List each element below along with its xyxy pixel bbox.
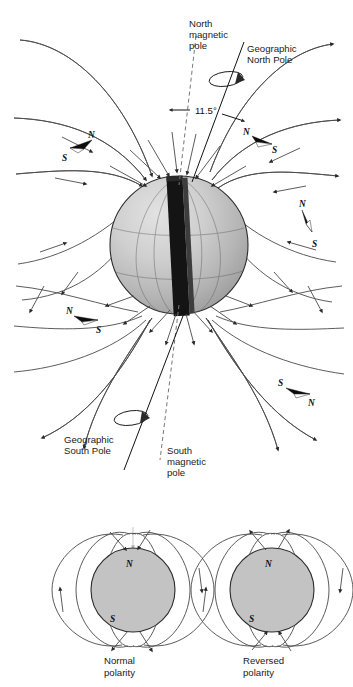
north-magnetic-pole-line-3: pole [189,40,207,51]
geographic-north-pole-line-1: Geographic [247,43,297,54]
south-magnetic-pole-line-3: pole [167,467,185,478]
reversed-polarity-south-label: S [249,614,254,624]
south-magnetic-pole-line-2: magnetic [167,456,206,467]
north-magnetic-pole-line-2: magnetic [189,29,228,40]
north-magnetic-pole-line-1: North [189,18,212,29]
tilt-angle-label: 11.5° [195,105,217,116]
normal-polarity-caption-line-2: polarity [104,667,135,678]
magnetic-field-figure: 11.5° North magnetic pole Geographic Nor… [0,0,353,687]
needle-upper-left-label-right: N [87,130,96,140]
needle-upper-right-label-left: N [242,127,251,137]
geographic-north-pole-line-2: North Pole [247,54,292,65]
geographic-south-pole-line-1: Geographic [64,434,114,445]
normal-polarity-caption-line-1: Normal [104,655,135,666]
needle-lower-left-label-left: N [65,306,74,316]
needle-lower-right-label-left: S [278,378,283,388]
normal-polarity-north-label: N [125,559,134,569]
geographic-south-pole-line-2: South Pole [64,445,111,456]
needle-lower-left-label-right: S [96,325,101,335]
needle-lower-right-label-right: N [307,398,316,408]
south-magnetic-pole-line-1: South [167,445,192,456]
needle-mid-right-label-bottom: S [312,239,317,249]
reversed-polarity-caption-line-2: polarity [243,667,274,678]
needle-upper-left-label-left: S [62,153,67,163]
normal-polarity-earth [91,548,175,632]
reversed-polarity-north-label: N [264,559,273,569]
label-geographic-north-pole: Geographic North Pole [247,43,297,65]
reversed-polarity-caption-line-1: Reversed [243,655,284,666]
needle-mid-right-label-top: N [298,199,307,209]
reversed-polarity-earth [230,548,314,632]
normal-polarity-south-label: S [110,614,115,624]
label-geographic-south-pole: Geographic South Pole [64,434,114,456]
needle-upper-right-label-right: S [272,145,277,155]
